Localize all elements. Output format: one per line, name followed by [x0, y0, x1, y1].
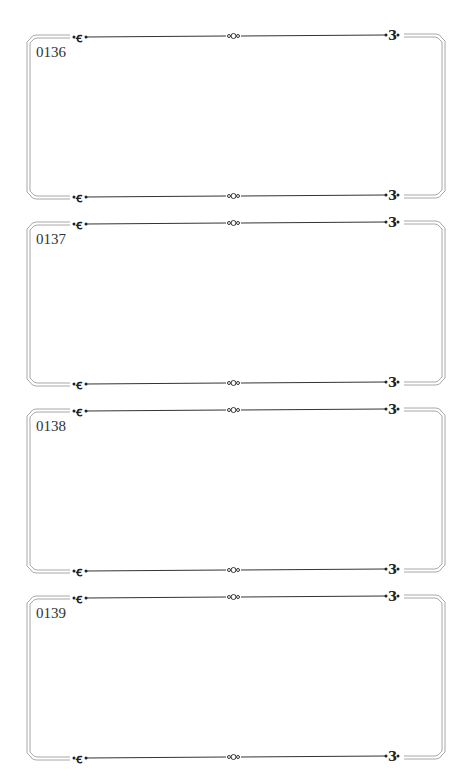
svg-text:3: 3	[388, 28, 397, 43]
frame-label: 0136	[36, 44, 66, 61]
svg-text:ꞓ: ꞓ	[75, 751, 83, 766]
frame-label: 0137	[36, 231, 66, 248]
ornamental-border: ꞓ ꞓ 3 3	[0, 589, 470, 769]
ornamental-border: ꞓ ꞓ 3 3	[0, 28, 470, 208]
frame-label: 0138	[36, 418, 66, 435]
svg-text:3: 3	[388, 215, 397, 230]
ornamental-border: ꞓ ꞓ 3 3	[0, 215, 470, 395]
ornamental-border: ꞓ ꞓ 3 3	[0, 402, 470, 582]
frame-label: 0139	[36, 605, 66, 622]
svg-text:3: 3	[388, 562, 397, 577]
svg-text:3: 3	[388, 589, 397, 604]
svg-text:ꞓ: ꞓ	[75, 377, 83, 392]
svg-text:3: 3	[388, 188, 397, 203]
svg-text:3: 3	[388, 375, 397, 390]
svg-text:ꞓ: ꞓ	[75, 564, 83, 579]
svg-text:3: 3	[388, 749, 397, 764]
svg-text:ꞓ: ꞓ	[75, 404, 83, 419]
svg-text:3: 3	[388, 402, 397, 417]
svg-text:ꞓ: ꞓ	[75, 30, 83, 45]
svg-text:ꞓ: ꞓ	[75, 591, 83, 606]
svg-text:ꞓ: ꞓ	[75, 217, 83, 232]
svg-text:ꞓ: ꞓ	[75, 190, 83, 205]
